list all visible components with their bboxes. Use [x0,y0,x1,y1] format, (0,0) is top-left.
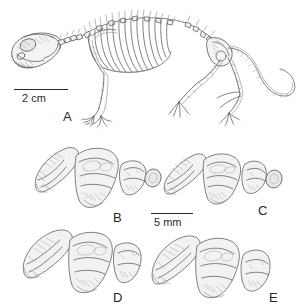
panel-b-teeth [35,148,163,208]
scale-bar-5mm-line [151,213,193,214]
panel-d-teeth [23,230,141,293]
figure-plate: 2 cm A [0,0,304,308]
panel-e-teeth [152,236,270,298]
panel-label-e: E [269,291,278,304]
panel-label-b: B [113,211,122,224]
panels-bcde-teeth-illustration [0,0,304,308]
panel-c-teeth [164,154,284,204]
panel-label-d: D [113,291,123,304]
scale-bar-5mm-label: 5 mm [154,217,182,228]
panel-label-c: C [258,204,268,217]
